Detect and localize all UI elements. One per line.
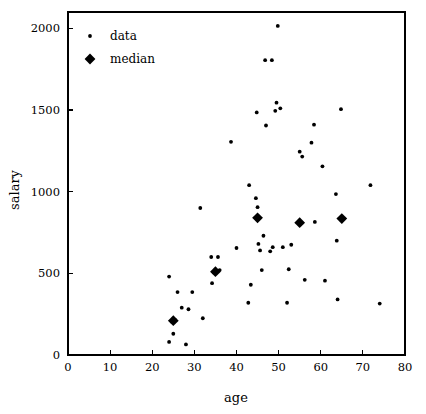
axis-ticks [68,28,405,355]
median-point-series [168,212,347,326]
data-point [258,249,262,253]
data-point [260,268,264,272]
data-point [278,106,282,110]
axis-tick-labels: 010203040506070800500100015002000 [31,21,413,374]
data-point [210,281,214,285]
data-point [254,196,258,200]
x-tick-label: 30 [187,360,202,374]
data-point [334,192,338,196]
median-point [210,266,221,277]
median-point [294,217,305,228]
data-point [198,206,202,210]
data-point [176,290,180,294]
plot-canvas: 010203040506070800500100015002000 datame… [0,0,426,414]
data-point [270,58,274,62]
data-point [247,183,251,187]
data-point [167,275,171,279]
data-point [323,279,327,283]
x-tick-label: 80 [398,360,413,374]
data-point [289,243,293,247]
data-point [184,342,188,346]
legend-median-label: median [110,52,155,66]
y-tick-label: 1500 [31,103,60,117]
data-point [209,255,213,259]
data-point [378,302,382,306]
x-tick-label: 10 [103,360,118,374]
data-point [229,140,233,144]
data-point [264,124,268,128]
x-tick-label: 60 [313,360,328,374]
data-point [339,107,343,111]
data-point [281,245,285,249]
x-tick-label: 50 [271,360,286,374]
data-point [312,123,316,127]
x-axis-title: age [224,390,248,405]
median-point [336,213,347,224]
data-point [263,58,267,62]
data-point [285,301,289,305]
data-point [335,239,339,243]
data-point [273,109,277,113]
data-point [216,255,220,259]
data-point [235,246,239,250]
data-point [180,306,184,310]
data-point [303,278,307,282]
data-point [287,267,291,271]
legend-median-marker-icon [85,54,96,65]
data-point [201,316,205,320]
data-point [268,249,272,253]
y-tick-label: 500 [38,266,60,280]
data-point-series [167,24,381,346]
data-point [275,101,279,105]
data-point [255,111,259,115]
data-point [369,183,373,187]
data-point [310,141,314,145]
data-point [246,301,250,305]
median-point [168,315,179,326]
data-point [187,307,191,311]
data-point [262,234,266,238]
x-tick-label: 20 [145,360,160,374]
legend-data-label: data [110,29,137,43]
x-tick-label: 0 [64,360,71,374]
data-point [271,245,275,249]
y-tick-label: 0 [53,348,60,362]
data-point [171,332,175,336]
data-point [249,283,253,287]
data-point [256,205,260,209]
data-point [300,155,304,159]
legend-data-marker-icon [88,34,92,38]
scatter-plot-figure: 010203040506070800500100015002000 datame… [0,0,426,414]
y-axis-title: salary [7,169,22,210]
x-tick-label: 40 [229,360,244,374]
data-point [190,290,194,294]
y-tick-label: 1000 [31,185,60,199]
y-tick-label: 2000 [31,21,60,35]
data-point [276,24,280,28]
data-point [321,164,325,168]
data-point [257,242,261,246]
legend: datamedian [85,29,156,66]
median-point [252,212,263,223]
data-point [336,298,340,302]
data-point [298,150,302,154]
x-tick-label: 70 [356,360,371,374]
data-point [313,220,317,224]
data-point [167,340,171,344]
